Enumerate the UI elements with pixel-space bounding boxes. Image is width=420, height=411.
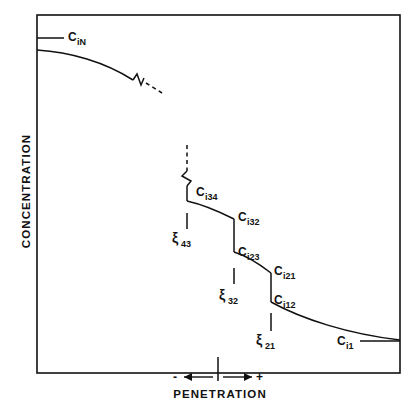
c-i12-base: C bbox=[274, 293, 283, 307]
concentration-penetration-figure: C iN C i34 C i32 C i23 C i21 C i12 C i1 bbox=[0, 0, 420, 411]
xi-21-base: ξ bbox=[256, 332, 263, 348]
plot-canvas: C iN C i34 C i32 C i23 C i21 C i12 C i1 bbox=[0, 0, 420, 411]
c-i1-base: C bbox=[337, 334, 346, 348]
c-i32-base: C bbox=[238, 210, 247, 224]
c-i12-subscript: i12 bbox=[283, 300, 296, 310]
label-xi-21: ξ 21 bbox=[256, 332, 275, 351]
label-xi-32: ξ 32 bbox=[219, 287, 238, 306]
c-i1-subscript: i1 bbox=[346, 341, 354, 351]
label-c-i34: C i34 bbox=[196, 185, 218, 202]
c-i21-subscript: i21 bbox=[283, 271, 296, 281]
phase-3-plateau bbox=[187, 201, 234, 219]
plot-frame bbox=[37, 15, 400, 373]
x-axis-negative-arrowhead-icon bbox=[184, 373, 192, 381]
x-axis-positive-sign: + bbox=[256, 370, 263, 384]
upper-curve-dashed-continuation bbox=[146, 83, 162, 93]
c-i34-base: C bbox=[196, 185, 205, 199]
x-axis-title: PENETRATION bbox=[140, 388, 300, 400]
c-i23-base: C bbox=[238, 245, 247, 259]
c-i23-subscript: i23 bbox=[247, 252, 260, 262]
label-c-i32: C i32 bbox=[238, 210, 260, 227]
c-i32-subscript: i32 bbox=[247, 217, 260, 227]
xi-32-base: ξ bbox=[219, 287, 226, 303]
label-c-i23: C i23 bbox=[238, 245, 260, 262]
label-c-i1: C i1 bbox=[337, 334, 354, 351]
label-xi-43: ξ 43 bbox=[172, 230, 191, 249]
c-in-subscript: iN bbox=[77, 37, 86, 47]
y-axis-title: CONCENTRATION bbox=[20, 91, 32, 291]
label-c-in: C iN bbox=[68, 30, 86, 47]
c-in-base: C bbox=[68, 30, 77, 44]
x-axis-negative-sign: - bbox=[173, 370, 177, 384]
xi-43-base: ξ bbox=[172, 230, 179, 246]
upper-curve-phase-n bbox=[37, 50, 133, 80]
break-zigzag-icon bbox=[133, 74, 144, 85]
x-axis-positive-arrowhead-icon bbox=[244, 373, 252, 381]
c-i21-base: C bbox=[274, 264, 283, 278]
xi-21-subscript: 21 bbox=[265, 341, 275, 351]
label-c-i12: C i12 bbox=[274, 293, 296, 310]
label-c-i21: C i21 bbox=[274, 264, 296, 281]
xi-32-subscript: 32 bbox=[228, 296, 238, 306]
c-i34-subscript: i34 bbox=[205, 192, 218, 202]
break-zigzag-vertical-icon bbox=[182, 171, 191, 186]
xi-43-subscript: 43 bbox=[181, 239, 191, 249]
